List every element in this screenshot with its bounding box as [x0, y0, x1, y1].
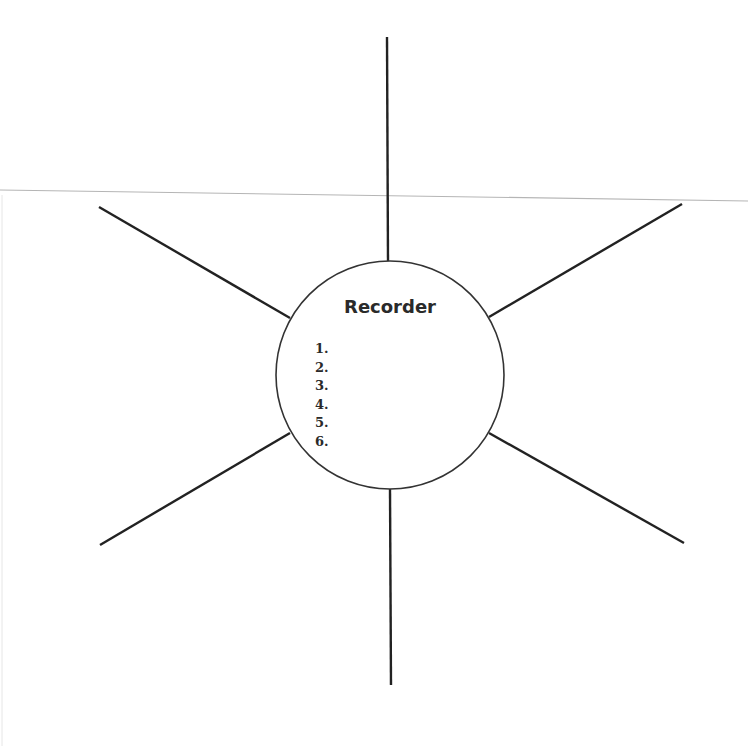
- web-diagram: [0, 0, 748, 746]
- spoke-top: [387, 37, 388, 261]
- spoke-lower-left: [100, 433, 290, 545]
- list-item: 6.: [315, 433, 329, 452]
- list-item: 4.: [315, 396, 329, 415]
- spoke-bottom: [390, 489, 391, 685]
- spoke-lower-right: [489, 433, 684, 543]
- list-item: 3.: [315, 377, 329, 396]
- spoke-upper-left: [99, 207, 290, 318]
- list-item: 1.: [315, 340, 329, 359]
- list-item: 5.: [315, 414, 329, 433]
- spoke-upper-right: [489, 204, 682, 317]
- list-item: 2.: [315, 359, 329, 378]
- numbered-list: 1. 2. 3. 4. 5. 6.: [315, 340, 329, 451]
- scan-artifact-line: [0, 190, 748, 201]
- center-title: Recorder: [290, 296, 490, 317]
